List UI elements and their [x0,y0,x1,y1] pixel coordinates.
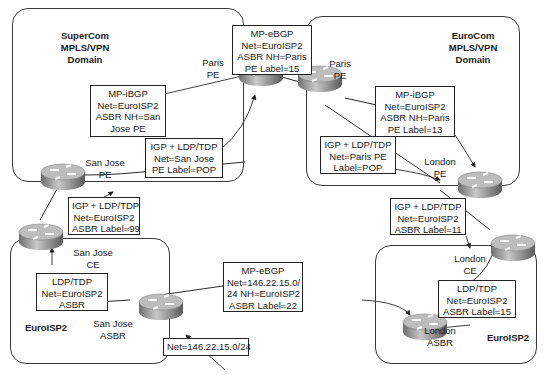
box-line: ASBR NH=Paris [236,51,308,63]
supercom-domain-title: SuperCom MPLS/VPN Domain [55,30,115,66]
label-london-asbr: London ASBR [420,325,460,348]
box-line: Net=EuroISP2 [72,212,136,224]
box-line: MP-eBGP [227,265,299,277]
box-line: Net=Paris PE [324,151,392,163]
box-line: Jose PE [94,123,162,135]
box-igp-london-ce: IGP + LDP/TDP Net=EuroISP2 ASBR Label=11 [390,198,466,235]
box-igp-eurocom: IGP + LDP/TDP Net=Paris PE Label=POP [320,136,396,174]
box-line: IGP + LDP/TDP [324,139,392,151]
label-line: Paris [193,57,233,69]
box-mp-ibgp-supercom: MP-iBGP Net=EuroISP2 ASBR NH=San Jose PE [90,85,166,137]
label-london-pe: London PE [420,156,460,179]
box-line: ASBR Label=99 [72,223,136,235]
label-line: PE [80,169,130,181]
box-line: ASBR Label=22 [227,300,299,312]
box-line: MP-iBGP [379,89,451,101]
label-san-jose-ce: San Jose CE [68,247,118,270]
box-igp-supercom: IGP + LDP/TDP Net=San Jose PE Label=POP [145,138,223,178]
label-line: ASBR [88,330,138,342]
box-line: PE Label=15 [236,63,308,75]
label-paris-pe-supercom: Paris PE [193,57,233,80]
label-line: London [450,253,490,265]
box-line: IGP + LDP/TDP [149,141,219,153]
box-net-prefix: Net=146.22.15.0/24 [163,338,249,356]
box-line: LDP/TDP [442,283,512,295]
label-san-jose-pe: San Jose PE [80,157,130,180]
box-line: Net=146.22.15.0/ [227,277,299,289]
eurocom-domain-title: EuroCom MPLS/VPN Domain [438,30,508,66]
label-line: PE [420,168,460,180]
box-line: Net=EuroISP2 [94,100,162,112]
box-line: ASBR NH=Paris [379,112,451,124]
domain-title-line: MPLS/VPN [55,42,115,54]
box-ldp-left: LDP/TDP Net=EuroISP2 ASBR [36,273,108,311]
box-mp-ebgp-top: MP-eBGP Net=EuroISP2 ASBR NH=Paris PE La… [232,25,312,75]
euroisp2-right-title: EuroISP2 [478,332,538,344]
label-line: CE [450,265,490,277]
box-line: IGP + LDP/TDP [72,200,136,212]
label-line: San Jose [68,247,118,259]
label-paris-pe-eurocom: Paris PE [320,58,360,81]
box-line: 24 NH=EuroISP2 [227,288,299,300]
domain-title-line: SuperCom [55,30,115,42]
box-line: PE Label=POP [149,164,219,176]
router-icon-london-pe[interactable] [457,170,503,200]
box-line: IGP + LDP/TDP [394,201,462,213]
box-line: Net=EuroISP2 [442,295,512,307]
domain-title-line: Domain [55,54,115,66]
box-line: LDP/TDP [40,276,104,288]
label-line: San Jose [80,157,130,169]
label-line: CE [68,259,118,271]
box-igp-sanjose-ce: IGP + LDP/TDP Net=EuroISP2 ASBR Label=99 [68,197,140,235]
label-line: PE [320,70,360,82]
box-line: Net=146.22.15.0/24 [167,341,245,353]
label-line: Paris [320,58,360,70]
box-line: ASBR NH=San [94,111,162,123]
label-line: ASBR [420,337,460,349]
box-line: Net=San Jose [149,153,219,165]
box-line: Label=POP [324,162,392,174]
label-line: London [420,156,460,168]
box-line: MP-eBGP [236,28,308,40]
box-line: ASBR [40,299,104,311]
router-icon-london-ce[interactable] [490,233,536,263]
box-mp-ibgp-eurocom: MP-iBGP Net=EuroISP2 ASBR NH=Paris PE La… [375,86,455,137]
label-line: San Jose [88,318,138,330]
label-san-jose-asbr: San Jose ASBR [88,318,138,341]
box-line: Net=EuroISP2 [236,40,308,52]
domain-title-line: Domain [438,54,508,66]
label-line: London [420,325,460,337]
domain-title-line: EuroCom [438,30,508,42]
router-icon-san-jose-asbr[interactable] [138,292,184,322]
box-line: MP-iBGP [94,88,162,100]
box-ldp-right: LDP/TDP Net=EuroISP2 ASBR Label=15 [438,280,516,318]
box-line: Net=EuroISP2 [379,101,451,113]
box-line: ASBR Label=15 [442,306,512,318]
domain-title-line: MPLS/VPN [438,42,508,54]
box-line: Net=EuroISP2 [394,213,462,225]
box-mp-ebgp-bottom: MP-eBGP Net=146.22.15.0/ 24 NH=EuroISP2 … [223,262,303,312]
box-line: Net=EuroISP2 [40,288,104,300]
box-line: ASBR Label=11 [394,224,462,236]
router-icon-san-jose-ce[interactable] [18,222,64,252]
label-line: PE [193,69,233,81]
euroisp2-left-title: EuroISP2 [16,322,76,334]
label-london-ce: London CE [450,253,490,276]
box-line: PE Label=13 [379,124,451,136]
